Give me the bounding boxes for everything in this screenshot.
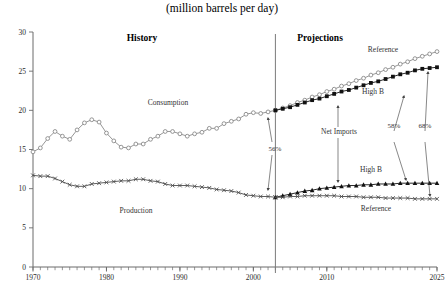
series-layer: [31, 50, 439, 201]
pct-2003-upper-leader: [268, 118, 272, 142]
pct-68-lower-leader: [425, 142, 430, 196]
pct-58-lower-leader: [394, 142, 406, 180]
reference-bottom-label: Reference: [361, 204, 392, 213]
y-tick-label: 20: [19, 106, 27, 115]
consumption-label: Consumption: [148, 98, 189, 107]
series-production-history: [31, 173, 277, 199]
high-b-top-label: High B: [362, 87, 384, 96]
series-reference-projection-bottom: [274, 194, 439, 201]
production-label: Production: [120, 206, 153, 215]
chart-axes: 051015202530 197019801990200020102025: [19, 28, 445, 282]
x-tick-label: 1970: [26, 273, 41, 282]
y-tick-label: 30: [19, 28, 27, 37]
y-tick-label: 10: [19, 184, 27, 193]
oil-supply-chart-svg: (million barrels per day) 051015202530 1…: [0, 0, 445, 296]
reference-top-label: Reference: [368, 45, 399, 54]
pct-2003-label: 56%: [269, 145, 282, 153]
y-axis-ticks: 051015202530: [19, 28, 34, 272]
x-tick-label: 1980: [99, 273, 114, 282]
y-tick-label: 0: [22, 263, 26, 272]
pct-2003-lower-leader: [268, 155, 272, 190]
series-high-b-projection-top: [274, 65, 439, 112]
series-consumption-history: [31, 108, 277, 153]
chart-title: (million barrels per day): [166, 2, 278, 15]
x-tick-label: 1990: [172, 273, 187, 282]
series-reference-projection-top: [274, 50, 439, 113]
history-section-label: History: [127, 33, 158, 43]
pct-high-b-2025-label: 58%: [388, 122, 401, 130]
x-tick-label: 2010: [319, 273, 334, 282]
high-b-bottom-label: High B: [360, 165, 382, 174]
y-tick-label: 25: [19, 67, 27, 76]
chart-container: (million barrels per day) 051015202530 1…: [0, 0, 445, 296]
y-tick-label: 15: [19, 145, 27, 154]
projections-section-label: Projections: [297, 33, 343, 43]
net-imports-label: Net Imports: [321, 127, 357, 136]
x-tick-label: 2000: [246, 273, 261, 282]
x-tick-label: 2025: [430, 273, 445, 282]
pct-reference-2025-label: 68%: [419, 122, 432, 130]
y-tick-label: 5: [22, 223, 26, 232]
x-axis-ticks: 197019801990200020102025: [26, 267, 445, 282]
